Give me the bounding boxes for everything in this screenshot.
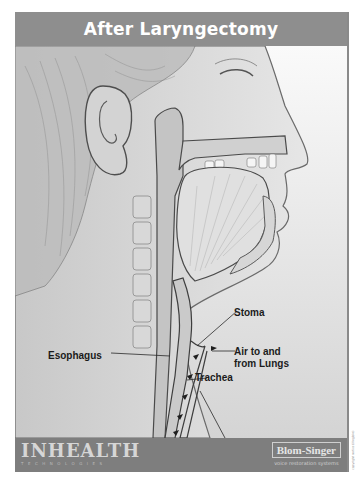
blom-singer-logo: Blom-Singer voice restoration systems — [272, 442, 341, 466]
label-air-flow: Air to and from Lungs — [234, 346, 289, 370]
poster: After Laryngectomy — [15, 12, 349, 472]
label-esophagus: Esophagus — [48, 350, 102, 362]
brand-name: INHEALTH — [21, 442, 140, 460]
inhealth-logo: INHEALTH TECHNOLOGIES — [21, 442, 140, 466]
label-stoma: Stoma — [234, 307, 265, 319]
copyright-note: copyright notice (illegible) — [351, 385, 357, 470]
partner-subtitle: voice restoration systems — [272, 460, 341, 466]
partner-name: Blom-Singer — [272, 442, 341, 458]
copyright-text: copyright notice (illegible) — [351, 385, 355, 470]
brand-subtitle: TECHNOLOGIES — [21, 461, 140, 466]
label-air-line2: from Lungs — [234, 358, 289, 370]
header-bar: After Laryngectomy — [15, 12, 347, 46]
label-trachea: Trachea — [195, 372, 233, 384]
label-air-line1: Air to and — [234, 346, 289, 358]
anatomy-illustration — [15, 46, 347, 438]
footer-bar: INHEALTH TECHNOLOGIES Blom-Singer voice … — [15, 438, 347, 472]
page-title: After Laryngectomy — [84, 19, 278, 39]
